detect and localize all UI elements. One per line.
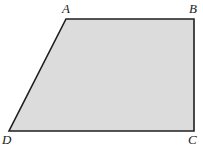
vertex-label-c: C bbox=[188, 133, 197, 146]
figure-canvas: A B C D bbox=[0, 0, 203, 150]
quadrilateral-diagram bbox=[0, 0, 203, 150]
vertex-label-d: D bbox=[2, 133, 11, 146]
vertex-label-b: B bbox=[189, 2, 197, 15]
vertex-label-a: A bbox=[62, 2, 70, 15]
